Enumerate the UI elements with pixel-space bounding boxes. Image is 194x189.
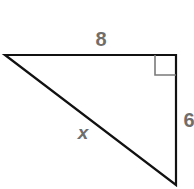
side-label-right: 6	[183, 109, 194, 131]
triangle-outline	[5, 55, 176, 185]
right-angle-marker-icon	[155, 55, 176, 75]
triangle-figure: 8 6 x	[0, 0, 194, 189]
side-label-top: 8	[95, 28, 106, 50]
side-label-hypotenuse: x	[77, 122, 90, 143]
right-triangle-diagram: 8 6 x	[0, 0, 194, 189]
